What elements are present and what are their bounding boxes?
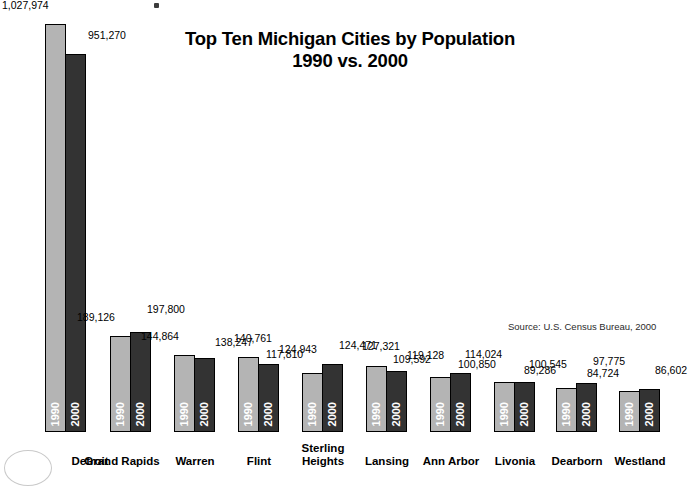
bar-2000[interactable]: 2000 (514, 382, 535, 432)
value-label-1990: 100,850 (458, 359, 496, 370)
value-label-2000: 197,800 (147, 304, 185, 315)
value-label-1990: 89,286 (524, 365, 556, 376)
bar-group: 19902000144,864138,247 (174, 355, 215, 432)
bar-year-label-2000: 2000 (258, 402, 279, 426)
bar-year-label-1990: 1990 (556, 402, 577, 426)
bar-2000[interactable]: 2000 (386, 371, 407, 432)
bar-year-label-1990: 1990 (302, 402, 323, 426)
bar-2000[interactable]: 2000 (450, 373, 471, 432)
bar-year-label-1990: 1990 (238, 402, 259, 426)
bar-year-label-2000: 2000 (322, 402, 343, 426)
bar-year-label-2000: 2000 (130, 402, 151, 426)
bar-year-label-1990: 1990 (174, 402, 195, 426)
bar-year-label-2000: 2000 (194, 402, 215, 426)
bar-year-label-1990: 1990 (366, 402, 387, 426)
bar-1990[interactable]: 1990 (45, 24, 66, 432)
bar-1990[interactable]: 1990 (430, 377, 451, 432)
value-label-1990: 1,027,974 (2, 0, 49, 11)
bar-pair: 19902000 (556, 383, 597, 432)
bar-group: 19902000109,592114,024 (430, 373, 471, 432)
value-label-1990: 84,724 (587, 368, 619, 379)
category-label-line: Sterling (263, 442, 383, 455)
bar-2000[interactable]: 2000 (194, 358, 215, 432)
bar-1990[interactable]: 1990 (619, 391, 640, 432)
bar-1990[interactable]: 1990 (110, 336, 131, 432)
value-label-1990: 140,761 (234, 333, 272, 344)
value-label-2000: 951,270 (88, 30, 126, 41)
bar-year-label-2000: 2000 (65, 402, 86, 426)
category-label-line: Westland (580, 455, 692, 468)
bar-group: 19902000127,321119,128 (366, 366, 407, 432)
value-label-1990: 127,321 (362, 341, 400, 352)
bar-year-label-2000: 2000 (576, 402, 597, 426)
bar-1990[interactable]: 1990 (174, 355, 195, 432)
bar-year-label-2000: 2000 (514, 402, 535, 426)
bar-2000[interactable]: 2000 (258, 364, 279, 432)
bar-year-label-1990: 1990 (430, 402, 451, 426)
bar-group: 19902000100,850100,545 (494, 382, 535, 432)
bar-year-label-1990: 1990 (45, 402, 66, 426)
bar-group: 1990200089,28697,775 (556, 383, 597, 432)
bar-year-label-2000: 2000 (386, 402, 407, 426)
bar-1990[interactable]: 1990 (238, 357, 259, 432)
bar-1990[interactable]: 1990 (366, 366, 387, 432)
value-label-2000: 86,602 (655, 365, 687, 376)
bar-group: 19902000189,126197,800 (110, 332, 151, 432)
value-label-1990: 189,126 (77, 312, 115, 323)
bar-pair: 19902000 (302, 364, 343, 432)
category-label: Westland (580, 455, 692, 468)
bar-2000[interactable]: 2000 (576, 383, 597, 432)
bar-1990[interactable]: 1990 (494, 382, 515, 432)
bar-year-label-2000: 2000 (639, 402, 660, 426)
bar-year-label-1990: 1990 (619, 402, 640, 426)
bar-year-label-1990: 1990 (494, 402, 515, 426)
bar-2000[interactable]: 2000 (65, 54, 86, 432)
bar-pair: 19902000 (366, 366, 407, 432)
bar-pair: 19902000 (619, 389, 660, 432)
value-label-1990: 144,864 (141, 331, 179, 342)
bar-1990[interactable]: 1990 (302, 373, 323, 432)
value-label-1990: 109,592 (393, 354, 431, 365)
bar-year-label-1990: 1990 (110, 402, 131, 426)
bar-1990[interactable]: 1990 (556, 388, 577, 432)
bar-2000[interactable]: 2000 (322, 364, 343, 432)
bar-group: 19902000117,810124,471 (302, 364, 343, 432)
bar-year-label-2000: 2000 (450, 402, 471, 426)
bar-pair: 19902000 (110, 332, 151, 432)
bar-group: 19902000140,761124,943 (238, 357, 279, 432)
bar-2000[interactable]: 2000 (130, 332, 151, 432)
bar-pair: 19902000 (174, 355, 215, 432)
bar-pair: 19902000 (45, 24, 86, 432)
bar-group: 1990200084,72486,602 (619, 389, 660, 432)
bar-pair: 19902000 (238, 357, 279, 432)
bar-2000[interactable]: 2000 (639, 389, 660, 432)
value-label-2000: 97,775 (593, 356, 625, 367)
bar-pair: 19902000 (430, 373, 471, 432)
value-label-1990: 117,810 (266, 349, 303, 360)
bar-group: 199020001,027,974951,270 (45, 24, 86, 432)
bar-pair: 19902000 (494, 382, 535, 432)
